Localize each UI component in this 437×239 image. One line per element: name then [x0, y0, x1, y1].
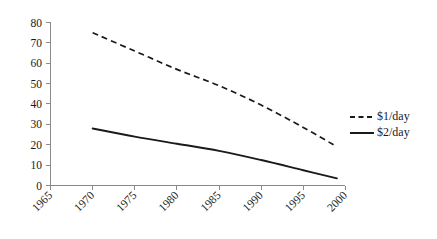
y-tick-label: 10	[31, 159, 43, 171]
y-tick-label: 20	[31, 139, 43, 151]
legend-label: $2/day	[377, 125, 410, 139]
line-chart: 80 70 60 50 40 30 20 10 0 1965 1970 1975	[0, 0, 437, 239]
y-tick-label: 80	[31, 17, 43, 29]
y-tick-label: 70	[31, 37, 43, 49]
y-axis-tick-labels: 80 70 60 50 40 30 20 10 0	[31, 17, 43, 192]
y-tick-label: 0	[36, 180, 42, 192]
legend-label: $1/day	[377, 109, 410, 123]
y-tick-label: 60	[31, 57, 43, 69]
y-tick-label: 40	[31, 98, 43, 110]
y-tick-label: 50	[31, 78, 43, 90]
y-tick-label: 30	[31, 118, 43, 130]
chart-canvas: 80 70 60 50 40 30 20 10 0 1965 1970 1975	[0, 0, 437, 239]
chart-background	[0, 0, 437, 239]
